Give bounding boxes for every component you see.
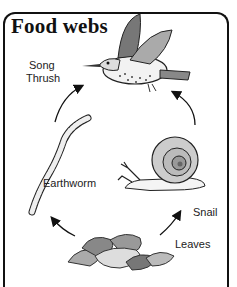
arrow-snail-to-thrush	[173, 92, 195, 125]
arrow-earthworm-to-thrush	[55, 86, 82, 122]
arrow-leaves-to-earthworm	[52, 218, 75, 236]
label-snail: Snail	[193, 206, 217, 219]
label-leaves: Leaves	[175, 238, 210, 251]
arrow-leaves-to-snail	[160, 212, 180, 235]
label-song-thrush: Song Thrush	[26, 59, 60, 85]
leaves-icon	[68, 234, 174, 270]
label-earthworm: Earthworm	[43, 177, 96, 190]
song-thrush-icon	[82, 14, 190, 92]
snail-icon	[118, 137, 205, 191]
earthworm-icon	[32, 118, 88, 212]
